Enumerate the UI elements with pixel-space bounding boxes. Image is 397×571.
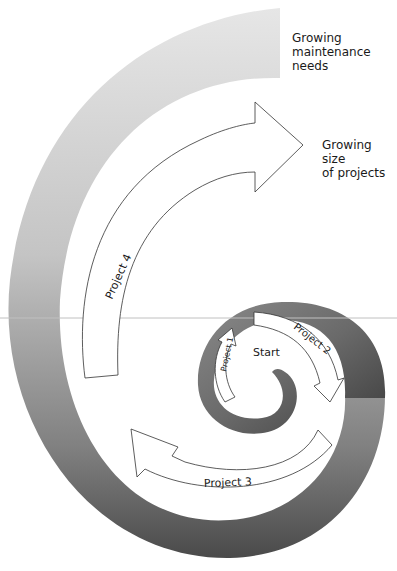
maintenance-label-line1: Growing [292,31,371,45]
maintenance-label: Growing maintenance needs [292,31,371,73]
size-label-line1: Growing size [322,138,397,166]
size-label-line2: of projects [322,166,397,180]
maintenance-label-line3: needs [292,59,371,73]
spiral-diagram: Project 4 Project 1 Project 2 Project 3 … [0,0,397,571]
project-3-label: Project 3 [204,475,253,490]
size-label: Growing size of projects [322,138,397,180]
maintenance-label-line2: maintenance [292,45,371,59]
start-label: Start [253,346,281,359]
